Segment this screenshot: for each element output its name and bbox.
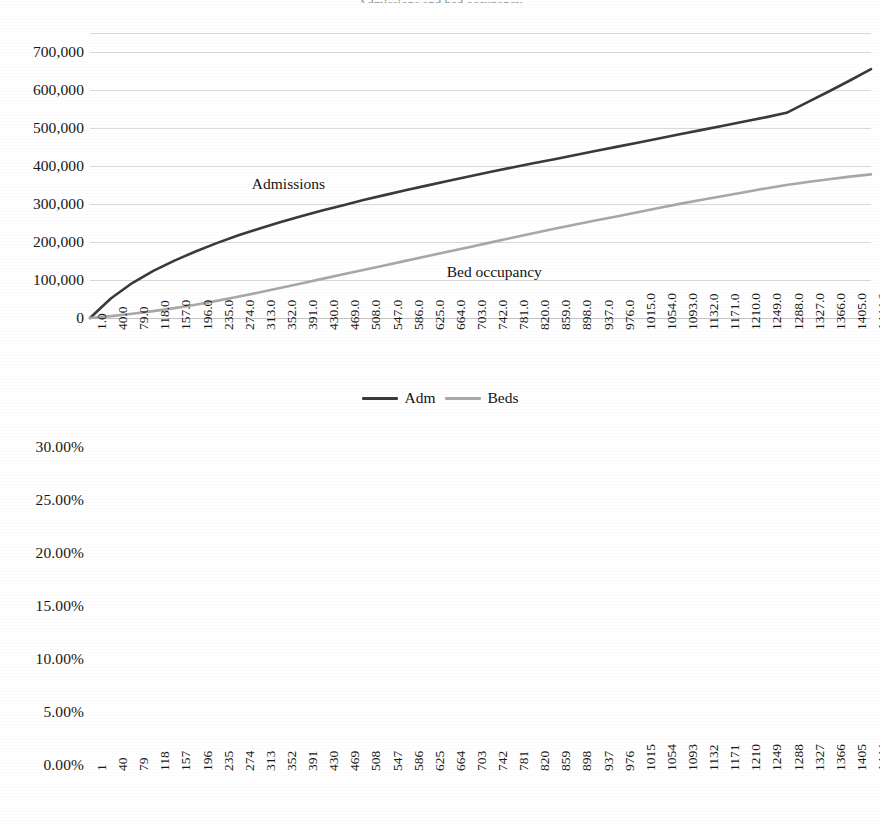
x-axis-tick-label: 79	[137, 758, 151, 772]
y-axis-tick-label: 5.00%	[43, 704, 84, 720]
x-axis-tick-label: 664.0	[454, 300, 468, 330]
x-axis-tick-label: 820	[538, 751, 552, 771]
x-axis-tick-label: 703	[475, 751, 489, 771]
x-axis-tick-label: 1327	[813, 744, 827, 771]
x-axis-tick-label: 469.0	[348, 300, 362, 330]
x-axis-tick-label: 703.0	[475, 300, 489, 330]
x-axis-tick-label: 547	[391, 751, 405, 771]
x-axis-tick-label: 1015	[644, 744, 658, 771]
x-axis-tick-label: 625	[433, 751, 447, 771]
y-axis-tick-label: 15.00%	[36, 598, 84, 614]
x-axis-tick-label: 1249.0	[770, 293, 784, 330]
x-axis-tick-label: 235.0	[222, 300, 236, 330]
y-axis-tick-label: 100,000	[33, 272, 84, 288]
x-axis-tick-label: 1288.0	[792, 293, 806, 330]
x-axis-tick-label: 313	[264, 751, 278, 771]
x-axis-tick-label: 586.0	[412, 300, 426, 330]
x-axis-tick-label: 976.0	[623, 300, 637, 330]
chart-admissions-beds: 0100,000200,000300,000400,000500,000600,…	[0, 0, 880, 418]
legend-swatch-adm	[362, 397, 398, 400]
legend-entry-adm[interactable]: Adm	[362, 390, 436, 406]
legend-label-adm: Adm	[405, 390, 436, 406]
y-axis-tick-label: 200,000	[33, 234, 84, 250]
y-axis-tick-label: 300,000	[33, 196, 84, 212]
x-axis-tick-label: 1210	[749, 744, 763, 771]
legend-entry-beds[interactable]: Beds	[445, 390, 519, 406]
x-axis-tick-label: 1.0	[95, 313, 109, 330]
x-axis-tick-label: 898	[580, 751, 594, 771]
x-axis-tick-label: 547.0	[391, 300, 405, 330]
x-axis-tick-label: 976	[623, 751, 637, 771]
series-line-adm	[90, 69, 871, 318]
x-axis-tick-label: 1054	[665, 744, 679, 771]
x-axis-tick-label: 274	[243, 751, 257, 771]
y-axis-tick-label: 500,000	[33, 120, 84, 136]
x-axis-tick-label: 1	[95, 764, 109, 771]
annotation-bed-occupancy: Bed occupancy	[447, 264, 542, 280]
x-axis-tick-label: 313.0	[264, 300, 278, 330]
x-axis-tick-label: 157	[179, 751, 193, 771]
y-axis-tick-label: 20.00%	[36, 545, 84, 561]
x-axis-tick-label: 157.0	[179, 300, 193, 330]
x-axis-tick-label: 937	[602, 751, 616, 771]
x-axis-tick-label: 742.0	[496, 300, 510, 330]
x-axis-tick-label: 859.0	[559, 300, 573, 330]
x-axis-tick-label: 1015.0	[644, 293, 658, 330]
x-axis-tick-label: 1405	[855, 744, 869, 771]
x-axis-tick-label: 1132.0	[707, 293, 721, 330]
x-axis-tick-label: 1366.0	[834, 293, 848, 330]
x-axis-labels-bottom: 1407911815719623527431335239143046950854…	[0, 418, 880, 508]
x-axis-tick-label: 1093.0	[686, 293, 700, 330]
chart-legend: Adm Beds	[0, 390, 880, 406]
annotation-admissions: Admissions	[252, 176, 325, 192]
x-axis-tick-label: 820.0	[538, 300, 552, 330]
x-axis-tick-label: 196.0	[201, 300, 215, 330]
x-axis-tick-label: 430	[327, 751, 341, 771]
x-axis-tick-label: 79.0	[137, 306, 151, 330]
x-axis-tick-label: 508.0	[369, 300, 383, 330]
x-axis-tick-label: 898.0	[580, 300, 594, 330]
x-axis-tick-label: 1444	[876, 744, 880, 771]
x-axis-tick-label: 781.0	[517, 300, 531, 330]
x-axis-tick-label: 742	[496, 751, 510, 771]
x-axis-tick-label: 625.0	[433, 300, 447, 330]
x-axis-tick-label: 1171	[728, 745, 742, 772]
x-axis-tick-label: 391.0	[306, 300, 320, 330]
chart-percent: 0.00%5.00%10.00%15.00%20.00%25.00%30.00%…	[0, 418, 880, 827]
x-axis-tick-label: 1132	[707, 745, 721, 772]
x-axis-tick-label: 1054.0	[665, 293, 679, 330]
x-axis-tick-label: 1210.0	[749, 293, 763, 330]
x-axis-tick-label: 118.0	[158, 300, 172, 330]
y-axis-tick-label: 0	[76, 310, 84, 326]
y-axis-tick-label: 0.00%	[43, 757, 84, 773]
x-axis-tick-label: 1327.0	[813, 293, 827, 330]
x-axis-tick-label: 352.0	[285, 300, 299, 330]
x-axis-tick-label: 274.0	[243, 300, 257, 330]
x-axis-tick-label: 508	[369, 751, 383, 771]
x-axis-tick-label: 1249	[770, 744, 784, 771]
x-axis-tick-label: 1366	[834, 744, 848, 771]
x-axis-tick-label: 586	[412, 751, 426, 771]
x-axis-tick-label: 1288	[792, 744, 806, 771]
x-axis-tick-label: 1405.0	[855, 293, 869, 330]
x-axis-tick-label: 391	[306, 751, 320, 771]
figure-root: Admissions and bed occupancy 0100,000200…	[0, 0, 880, 827]
x-axis-tick-label: 1171.0	[728, 293, 742, 330]
y-axis-tick-label: 400,000	[33, 158, 84, 174]
x-axis-tick-label: 664	[454, 751, 468, 771]
x-axis-tick-label: 430.0	[327, 300, 341, 330]
x-axis-tick-label: 40	[116, 758, 130, 772]
x-axis-tick-label: 937.0	[602, 300, 616, 330]
x-axis-labels-top: 1.040.079.0118.0157.0196.0235.0274.0313.…	[0, 0, 880, 90]
y-axis-tick-label: 10.00%	[36, 651, 84, 667]
legend-swatch-beds	[445, 397, 481, 400]
x-axis-tick-label: 118	[158, 751, 172, 771]
x-axis-tick-label: 859	[559, 751, 573, 771]
x-axis-tick-label: 1444.0	[876, 293, 880, 330]
x-axis-tick-label: 1093	[686, 744, 700, 771]
x-axis-tick-label: 781	[517, 751, 531, 771]
x-axis-tick-label: 235	[222, 751, 236, 771]
x-axis-tick-label: 40.0	[116, 306, 130, 330]
x-axis-tick-label: 196	[201, 751, 215, 771]
x-axis-tick-label: 469	[348, 751, 362, 771]
